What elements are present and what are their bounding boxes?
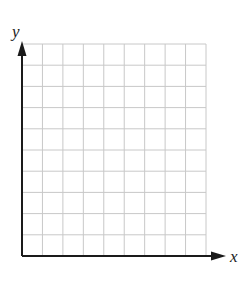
- y-axis: [18, 41, 27, 256]
- x-axis-label: x: [229, 247, 238, 266]
- coordinate-grid-diagram: y x: [0, 0, 247, 283]
- y-axis-label: y: [10, 22, 20, 41]
- x-axis-arrow-icon: [211, 252, 226, 261]
- y-axis-arrow-icon: [18, 41, 27, 56]
- grid-lines: [22, 44, 206, 256]
